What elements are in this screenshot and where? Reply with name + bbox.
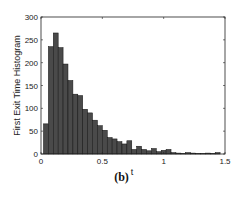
histogram-bar xyxy=(146,151,151,154)
histogram-bar xyxy=(102,130,107,154)
y-tick-label: 250 xyxy=(25,36,39,45)
y-tick-label: 50 xyxy=(29,127,38,136)
y-axis-label: First Exit Time Histogram xyxy=(12,35,22,136)
histogram-bar xyxy=(132,149,137,154)
x-tick-label: 1.5 xyxy=(219,157,231,166)
histogram-bar xyxy=(78,96,83,154)
x-tick-label: 1 xyxy=(161,157,166,166)
histogram-bar xyxy=(73,94,78,154)
histogram-bar xyxy=(117,142,122,154)
y-tick-label: 150 xyxy=(25,82,39,91)
histogram-bar xyxy=(127,141,132,154)
histogram-bar xyxy=(151,149,156,154)
histogram-bar xyxy=(58,48,63,154)
histogram-bar xyxy=(88,113,93,154)
histogram-bar xyxy=(83,109,88,154)
histogram-bar xyxy=(122,144,127,154)
histogram-bar xyxy=(137,146,142,154)
histogram-bar xyxy=(93,120,98,154)
y-tick-label: 100 xyxy=(25,104,39,113)
histogram-bar xyxy=(48,47,53,154)
histogram-bar xyxy=(142,149,147,154)
histogram-bar xyxy=(112,139,117,154)
histogram-bar xyxy=(43,124,48,154)
histogram-bar xyxy=(68,80,73,154)
x-tick-label: 0.5 xyxy=(97,157,109,166)
x-tick-label: 0 xyxy=(39,157,44,166)
histogram-bar xyxy=(63,64,68,154)
histogram-bar xyxy=(107,138,112,154)
histogram-bars xyxy=(43,33,220,154)
histogram-bar xyxy=(166,149,171,154)
y-tick-label: 200 xyxy=(25,59,39,68)
histogram-bar xyxy=(97,126,102,154)
histogram-bar xyxy=(53,33,58,154)
figure-caption: (b) xyxy=(0,170,243,185)
y-tick-label: 300 xyxy=(25,13,39,22)
